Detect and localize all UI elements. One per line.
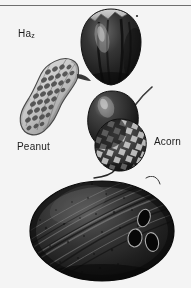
coconut-figure bbox=[26, 176, 178, 286]
acorn-figure bbox=[82, 85, 158, 180]
label-hazelnut-text: Ha bbox=[18, 28, 31, 39]
label-acorn: Acorn bbox=[154, 136, 181, 147]
illustration-plate: Haz Peanut Acorn bbox=[0, 0, 191, 288]
label-hazelnut: Haz bbox=[18, 28, 35, 40]
label-hazelnut-subscript: z bbox=[31, 32, 35, 39]
label-peanut: Peanut bbox=[17, 141, 50, 152]
